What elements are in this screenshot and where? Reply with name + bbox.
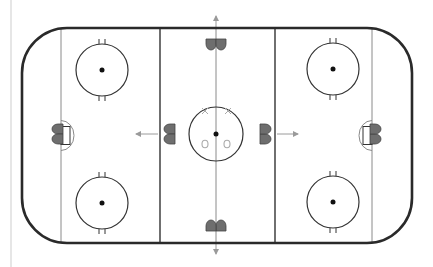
faceoff-circles	[76, 38, 359, 234]
faceoff-dot	[331, 200, 336, 205]
player-lobe	[260, 134, 271, 144]
player-lobe	[216, 220, 226, 231]
player-lobe	[206, 39, 216, 50]
player-lobe	[164, 124, 175, 134]
o-marker-icon	[224, 140, 230, 148]
faceoff-dot	[100, 201, 105, 206]
faceoff-circle-right-top	[307, 38, 359, 100]
player-right-blue-icon	[260, 124, 271, 144]
player-left-goalie-icon	[52, 124, 63, 144]
hockey-rink-diagram	[0, 0, 433, 267]
faceoff-dot	[214, 132, 219, 137]
player-right-goalie-icon	[370, 124, 381, 144]
faceoff-circle-left-bottom	[76, 172, 128, 234]
player-left-blue-icon	[164, 124, 175, 144]
player-lobe	[260, 124, 271, 134]
player-lobe	[52, 134, 63, 144]
o-marker-icon	[202, 140, 208, 148]
player-lobe	[164, 134, 175, 144]
player-lobe	[206, 220, 216, 231]
player-lobe	[52, 124, 63, 134]
player-lobe	[370, 124, 381, 134]
faceoff-dot	[331, 67, 336, 72]
faceoff-circle-left-top	[76, 39, 128, 101]
faceoff-circle-right-bottom	[307, 171, 359, 233]
player-lobe	[370, 134, 381, 144]
faceoff-dot	[100, 68, 105, 73]
player-lobe	[216, 39, 226, 50]
